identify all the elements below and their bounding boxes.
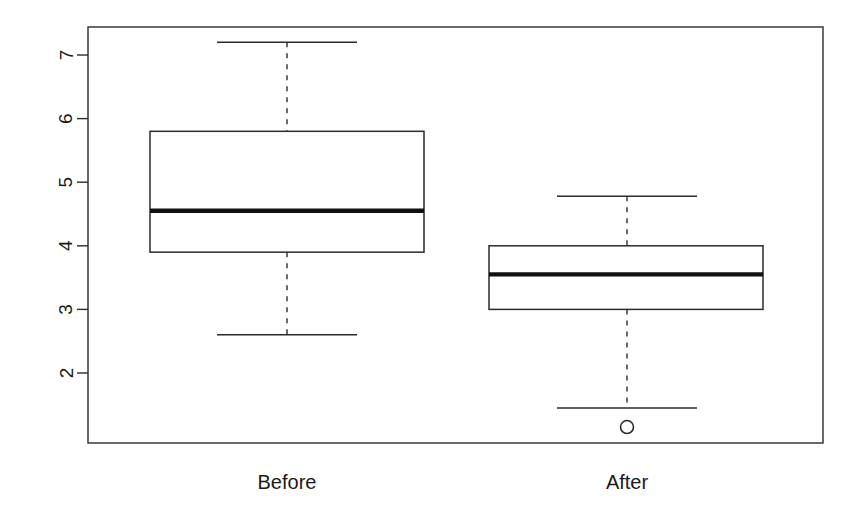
y-tick-label: 2 bbox=[56, 368, 77, 379]
x-tick-label-after: After bbox=[606, 471, 649, 493]
y-tick-label: 3 bbox=[56, 304, 77, 315]
y-tick-label: 7 bbox=[56, 50, 77, 61]
iqr-box bbox=[150, 131, 424, 252]
x-tick-label-before: Before bbox=[258, 471, 317, 493]
iqr-box bbox=[489, 246, 763, 310]
boxplot-figure: 765432 BeforeAfter bbox=[0, 0, 865, 521]
plot-canvas: 765432 BeforeAfter bbox=[0, 0, 865, 521]
x-axis: BeforeAfter bbox=[258, 471, 649, 493]
boxplot-after bbox=[489, 196, 763, 433]
boxplot-before bbox=[150, 42, 424, 335]
y-axis: 765432 bbox=[56, 50, 89, 379]
y-tick-label: 6 bbox=[56, 113, 77, 124]
y-tick-label: 5 bbox=[56, 177, 77, 188]
outlier-point bbox=[621, 421, 634, 434]
y-tick-label: 4 bbox=[56, 240, 77, 251]
box-series-group bbox=[150, 42, 763, 433]
